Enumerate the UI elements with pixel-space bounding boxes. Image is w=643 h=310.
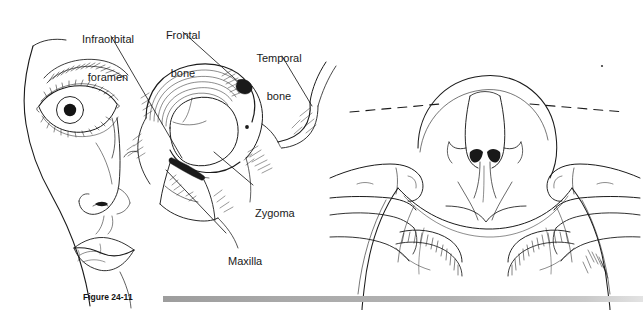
cranial-vault-inner — [420, 90, 548, 152]
maxilla-crease — [165, 186, 198, 202]
nostril-left-vertex — [470, 149, 483, 163]
ala-vertex-left — [449, 142, 466, 149]
finger-left-upper-edge — [330, 164, 420, 178]
finger-left-second — [330, 213, 414, 228]
brow-ridge-contour — [398, 188, 572, 229]
philtrum-right — [108, 216, 113, 234]
fingertip-left-second — [413, 228, 417, 254]
lower-lip-bottom — [74, 248, 134, 271]
columella-mid — [483, 166, 484, 202]
examiner-hand-right — [547, 164, 640, 261]
fingertip-right-second — [553, 228, 557, 254]
finger-right-knuckle — [597, 183, 613, 185]
temple-left-contour — [398, 206, 414, 262]
lip-line — [74, 248, 134, 256]
forehead-right-edge-inner — [582, 200, 610, 294]
fingernail-right — [554, 176, 562, 188]
label-zygoma-line1: Zygoma — [255, 207, 315, 220]
finger-left-lower-edge — [330, 197, 416, 211]
ala-right — [118, 188, 130, 203]
finger-right-lower-edge — [554, 197, 640, 211]
nose-group — [79, 118, 130, 234]
label-temporal-bone: Temporal bone — [246, 27, 312, 127]
upper-lip-detail — [80, 251, 102, 255]
nostril-shadow — [95, 202, 108, 207]
label-frontal-bone: Frontal bone — [152, 4, 214, 104]
label-maxilla-line1: Maxilla — [228, 255, 288, 268]
orbital-rim-right-vertex2 — [508, 242, 574, 276]
ala-right-lower — [117, 203, 130, 214]
examiner-hand-left — [330, 164, 423, 261]
upper-lip-vertex-right — [492, 182, 512, 220]
orbital-rim-left-vertex2 — [396, 242, 462, 276]
ala-vertex-right — [504, 142, 521, 149]
dashed-line-left — [350, 104, 440, 112]
figure-caption-number: Figure 24-11 — [83, 292, 133, 302]
mouth-group — [74, 237, 134, 270]
cheek-contour — [112, 118, 115, 158]
stray-speck — [601, 65, 603, 67]
ala-left — [79, 194, 89, 201]
infraorbital-foramen-mark — [169, 158, 205, 180]
temporal-bone-edge2 — [318, 66, 336, 106]
maxilla-alveolar-edge — [160, 204, 218, 221]
fingernail-left — [408, 176, 416, 188]
orbital-suture — [173, 121, 206, 125]
temporal-bone-edge — [310, 62, 326, 102]
finger-right-upper-edge — [550, 164, 640, 178]
philtrum-left — [96, 216, 104, 234]
maxilla-lateral-edge — [160, 163, 170, 204]
orbit-left-vertex — [396, 230, 462, 276]
temple-right-contour — [556, 206, 572, 262]
label-frontal-bone-line2: bone — [152, 67, 214, 80]
orbit-right-vertex — [508, 230, 574, 276]
nasal-process-edge — [138, 118, 150, 184]
nostril-right-vertex — [487, 149, 500, 163]
label-maxilla: Maxilla — [228, 230, 288, 293]
dashed-line-right — [530, 104, 624, 112]
label-infraorbital-foramen-line1: Infraorbital — [66, 33, 150, 46]
label-infraorbital-foramen: Infraorbital foramen — [66, 8, 150, 108]
label-temporal-bone-line2: bone — [246, 90, 312, 103]
fingertip-left — [408, 176, 423, 201]
hairline-edge — [33, 39, 66, 46]
figure-caption: Figure 24-11 — [0, 292, 643, 310]
label-frontal-bone-line1: Frontal — [152, 29, 214, 42]
symmetry-dashed-line — [350, 104, 624, 112]
right-panel-artwork — [330, 65, 640, 310]
arch-joint — [278, 142, 282, 148]
label-temporal-bone-line1: Temporal — [246, 52, 312, 65]
label-infraorbital-foramen-line2: foramen — [66, 71, 150, 84]
malar-line — [96, 143, 112, 184]
maxilla-body-right — [204, 180, 215, 220]
chin-silhouette — [446, 206, 526, 222]
upper-lip-vertex-left — [458, 182, 478, 220]
cranial-vault-outline — [418, 76, 557, 178]
lower-lip-detail — [83, 260, 105, 262]
orbit-right-lower-shadow — [540, 248, 574, 270]
lower-eyelid — [39, 105, 117, 132]
nasion — [470, 92, 500, 97]
caption-rule-bar — [163, 296, 643, 302]
nasal-hatching — [127, 134, 145, 158]
fingertip-right — [547, 176, 562, 201]
nasal-dorsum — [108, 118, 120, 208]
figure-container: Infraorbital foramen Frontal bone Tempor… — [0, 0, 643, 310]
nose-vertex-group — [446, 92, 526, 223]
orbit-left-lower-shadow — [396, 248, 430, 270]
finger-right-second — [556, 213, 640, 228]
leader-maxilla — [166, 170, 226, 233]
zygoma-hatching — [244, 146, 272, 173]
finger-left-knuckle — [357, 183, 373, 185]
buttress-hatching — [214, 190, 233, 212]
